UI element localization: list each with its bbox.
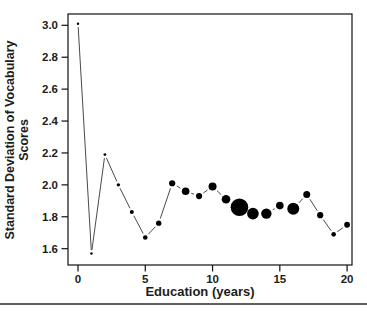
data-point [130,210,134,214]
x-tick-label: 15 [273,273,286,285]
data-point [143,235,148,240]
connector-lines [78,27,343,250]
data-series [77,23,350,255]
connector-segment [134,216,143,234]
x-tick-label: 0 [75,273,81,285]
y-tick-label: 2.0 [42,179,58,191]
connector-segment [310,199,317,211]
y-axis: 3.02.82.62.42.22.01.81.6 [42,19,68,254]
data-point [209,182,217,190]
connector-segment [148,227,155,235]
data-point [117,183,120,186]
data-point [77,23,79,25]
connector-segment [120,188,130,208]
y-tick-label: 2.8 [42,51,59,63]
y-tick-label: 2.2 [42,147,58,159]
x-tick-label: 20 [341,273,354,285]
data-point [247,208,259,220]
connector-segment [337,228,343,232]
connector-segment [217,191,221,195]
data-point [276,202,284,210]
data-point [222,195,231,204]
connector-segment [177,186,181,188]
vocabulary-sd-figure: 3.02.82.62.42.22.01.81.6 05101520 Educat… [0,0,367,315]
y-axis-label-line1: Standard Deviation of Vocabulary [3,40,17,239]
y-tick-label: 2.4 [42,115,59,127]
data-point [156,220,161,225]
data-point [317,212,323,218]
data-point [331,232,336,237]
data-point [303,191,310,198]
y-tick-label: 3.0 [42,19,58,31]
connector-segment [106,158,116,181]
data-point [231,198,249,216]
data-point [182,187,190,195]
data-point [261,208,271,218]
data-point [169,180,175,186]
plot-frame [68,14,352,265]
y-tick-label: 1.6 [42,243,58,255]
data-point [196,193,202,199]
y-tick-label: 1.8 [42,211,59,223]
connector-segment [299,199,303,203]
connector-segment [191,193,194,194]
connector-segment [160,188,170,218]
connector-segment [273,209,275,210]
data-point [287,203,299,215]
data-point [104,153,107,156]
y-tick-label: 2.6 [42,83,58,95]
x-axis: 05101520 [75,265,354,285]
connector-segment [323,220,331,231]
data-point [90,252,92,254]
data-point [344,222,350,228]
y-axis-label-line2: Scores [17,119,31,161]
connector-segment [78,27,91,250]
connector-segment [92,158,105,250]
connector-segment [203,190,207,193]
x-axis-label: Education (years) [145,284,254,299]
vocabulary-sd-chart: 3.02.82.62.42.22.01.81.6 05101520 Educat… [0,0,367,315]
